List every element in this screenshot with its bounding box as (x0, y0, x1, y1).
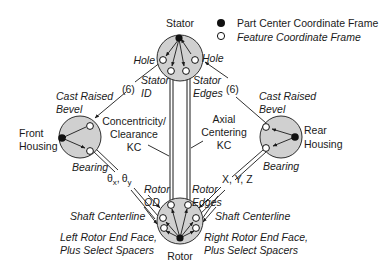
stator-center-frame-icon (175, 34, 182, 41)
stator-rotor-liaisons (170, 78, 190, 200)
rotor-right-end-face-frame-icon (193, 225, 200, 232)
front-housing-label-1: Front (19, 127, 44, 139)
rear-bearing-frame-icon (263, 145, 270, 152)
rotor-left-shaft-frame-icon (160, 215, 167, 222)
stator-hole-left-icon (160, 57, 167, 64)
concentricity-kc-label-2: Clearance (110, 128, 158, 140)
stator-edges-label-1: Stator (193, 74, 222, 86)
stator-id-label-2: ID (141, 87, 152, 99)
front-bevel-label-2: Bevel (56, 103, 83, 115)
rear-housing-label-1: Rear (304, 124, 327, 136)
rear-bevel-label-2: Bevel (259, 103, 286, 115)
stator-edges-frame-icon (183, 68, 190, 75)
rotor-right-shaft-frame-icon (193, 215, 200, 222)
concentricity-kc-label-3: KC (127, 141, 142, 153)
front-bearing-frame-icon (87, 148, 94, 155)
front-housing-part (58, 116, 101, 158)
concentricity-kc-label-1: Concentricity/ (102, 115, 166, 127)
front-bearing-label: Bearing (72, 161, 108, 173)
stator-hole-right-icon (192, 57, 199, 64)
rear-housing-part (260, 116, 302, 158)
left-shaft-centerline-label: Shaft Centerline (70, 210, 145, 222)
left-dof-label: θx,θy (107, 172, 132, 187)
concentricity-kc-leader (148, 145, 169, 156)
assembly-diagram: Part Center Coordinate Frame Feature Coo… (0, 0, 391, 275)
rear-bevel-label-1: Cast Raised (259, 90, 317, 102)
axial-kc-leader (191, 141, 203, 148)
stator-hole-left-label: Hole (133, 54, 155, 66)
left-end-face-label-2: Plus Select Spacers (60, 244, 155, 256)
right-shaft-centerline-label: Shaft Centerline (215, 210, 290, 222)
stator-id-label-1: Stator (141, 74, 170, 86)
legend-feature-label: Feature Coordinate Frame (237, 31, 361, 43)
part-center-frame-icon (217, 19, 225, 27)
rotor-od-frame-icon (168, 202, 175, 209)
legend-part-center-label: Part Center Coordinate Frame (237, 17, 378, 29)
feature-frame-icon (217, 32, 224, 39)
front-housing-label-2: Housing (19, 140, 58, 152)
right-end-face-label-2: Plus Select Spacers (204, 244, 299, 256)
right-end-face-label-1: Right Rotor End Face, (204, 231, 308, 243)
rear-bearing-label: Bearing (263, 160, 299, 172)
rotor-edges-label-2: Edges (192, 196, 223, 208)
right-dof-label: X, Y, Z (222, 173, 253, 185)
left-end-face-label-1: Left Rotor End Face, (60, 231, 157, 243)
rotor-center-frame-icon (176, 234, 183, 241)
rear-bevel-frame-icon (263, 124, 270, 131)
axial-kc-label-1: Axial (213, 113, 236, 125)
front-housing-center-frame-icon (58, 134, 66, 142)
left-shaft-arrow (144, 207, 157, 224)
rotor-od-label-1: Rotor (144, 183, 170, 195)
rotor-edges-label-1: Rotor (192, 183, 218, 195)
rear-housing-center-frame-icon (291, 133, 299, 141)
legend: Part Center Coordinate Frame Feature Coo… (217, 17, 378, 43)
rotor-label: Rotor (167, 250, 193, 262)
right-count-label: (6) (226, 83, 239, 95)
front-bevel-frame-icon (87, 123, 94, 130)
left-count-label: (6) (122, 83, 135, 95)
stator-label: Stator (166, 17, 195, 29)
svg-text:θx,θy: θx,θy (107, 172, 132, 187)
stator-edges-label-2: Edges (193, 87, 224, 99)
axial-kc-label-2: Centering (201, 126, 247, 138)
rear-housing-label-2: Housing (304, 138, 343, 150)
axial-kc-label-3: KC (217, 139, 232, 151)
stator-hole-right-label: Hole (202, 52, 224, 64)
rotor-left-end-face-frame-icon (161, 225, 168, 232)
rotor-od-label-2: OD (144, 196, 160, 208)
rotor-edges-frame-icon (185, 202, 192, 209)
front-bevel-label-1: Cast Raised (56, 90, 114, 102)
